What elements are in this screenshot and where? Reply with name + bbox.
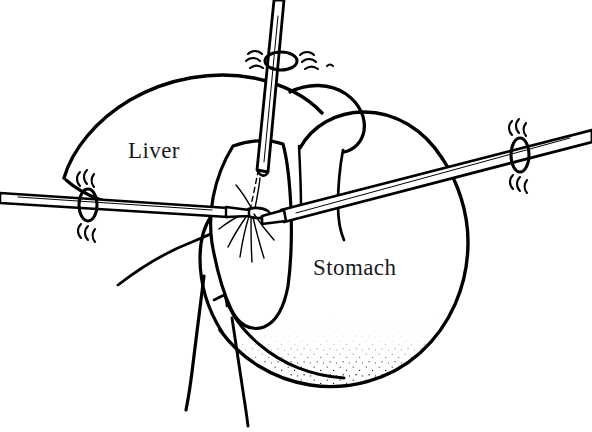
stomach-label: Stomach: [313, 255, 396, 280]
illustration-canvas: Liver Stomach: [0, 0, 592, 432]
left-grasper-neck: [226, 207, 249, 217]
laparoscopic-illustration: Liver Stomach: [0, 0, 592, 432]
liver-label: Liver: [128, 138, 180, 163]
